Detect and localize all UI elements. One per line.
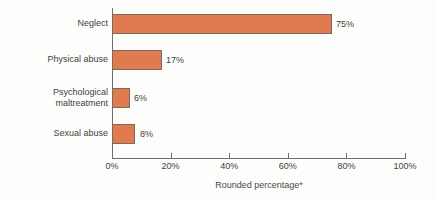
bar-value-sexual-abuse: 8% [140, 129, 153, 139]
x-axis-tick-60 [288, 153, 289, 158]
x-axis-line [112, 158, 406, 159]
category-label-physical-abuse: Physical abuse [4, 54, 108, 65]
x-axis-tick-label-100: 100% [383, 161, 427, 171]
bar-physical-abuse [112, 50, 162, 70]
y-axis-title: Maltreatment type [2, 160, 18, 202]
x-axis-tick-label-0: 0% [90, 161, 134, 171]
x-axis-tick-40 [229, 153, 230, 158]
bar-value-neglect: 75% [336, 19, 354, 29]
x-axis-tick-80 [346, 153, 347, 158]
x-axis-tick-0 [112, 153, 113, 158]
bar-psychological-maltreatment [112, 88, 130, 108]
x-axis-tick-label-40: 40% [207, 161, 251, 171]
category-label-psychological-maltreatment: Psychological maltreatment [4, 87, 108, 109]
x-axis-tick-label-60: 60% [266, 161, 310, 171]
x-axis-tick-100 [405, 153, 406, 158]
bar-value-psychological-maltreatment: 6% [134, 93, 147, 103]
x-axis-tick-label-80: 80% [324, 161, 368, 171]
x-axis-tick-20 [171, 153, 172, 158]
category-label-sexual-abuse: Sexual abuse [4, 128, 108, 139]
x-axis-title: Rounded percentage* [112, 180, 406, 190]
bar-chart-figure: Maltreatment type Neglect Physical abuse… [0, 0, 437, 202]
x-axis-tick-label-20: 20% [149, 161, 193, 171]
bar-value-physical-abuse: 17% [166, 55, 184, 65]
bar-sexual-abuse [112, 124, 135, 144]
category-label-neglect: Neglect [4, 18, 108, 29]
bar-neglect [112, 14, 332, 34]
